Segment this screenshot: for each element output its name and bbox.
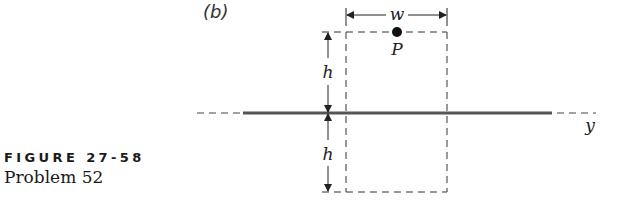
diagram-canvas: w P h h y (0, 0, 637, 211)
point-p-dot (392, 27, 402, 37)
height-top-label: h (323, 62, 334, 82)
height-bottom-label: h (323, 144, 334, 164)
figure: (b) FIGURE 27-58 Problem 52 (0, 0, 637, 211)
point-label: P (390, 39, 403, 59)
width-label: w (390, 4, 405, 24)
axis-label: y (584, 115, 595, 135)
